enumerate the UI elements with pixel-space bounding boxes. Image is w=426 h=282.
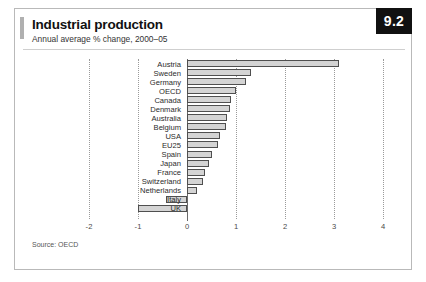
category-label: Australia (15, 115, 181, 123)
x-tick-label: 2 (283, 222, 287, 231)
category-label: Germany (15, 79, 181, 87)
category-label: Italy (15, 196, 181, 204)
bar (187, 141, 218, 148)
bar (187, 187, 197, 194)
chart-figure: 9.2 Industrial production Annual average… (14, 8, 412, 270)
category-label: Spain (15, 151, 181, 159)
x-tick-label: -1 (135, 222, 142, 231)
category-label: Austria (15, 61, 181, 69)
category-label: Canada (15, 97, 181, 105)
bar (187, 78, 246, 85)
bar (187, 87, 236, 94)
category-label: UK (15, 205, 181, 213)
bar (187, 105, 230, 112)
category-label: Netherlands (15, 187, 181, 195)
x-tick-label: -2 (86, 222, 93, 231)
category-label: EU25 (15, 142, 181, 150)
x-tick-label: 1 (234, 222, 238, 231)
x-tick-label: 0 (185, 222, 189, 231)
category-label: Switzerland (15, 178, 181, 186)
bar (187, 123, 226, 130)
x-tick-label: 4 (381, 222, 385, 231)
bar (187, 178, 203, 185)
x-tick-label: 3 (332, 222, 336, 231)
category-label: Denmark (15, 106, 181, 114)
category-label: Sweden (15, 70, 181, 78)
category-label: Belgium (15, 124, 181, 132)
gridline-4 (383, 59, 384, 219)
source-note: Source: OECD (32, 241, 78, 248)
bar (187, 60, 339, 67)
bar (187, 69, 251, 76)
category-label: OECD (15, 88, 181, 96)
category-label: USA (15, 133, 181, 141)
bar (187, 169, 205, 176)
bar (187, 96, 231, 103)
gridline-2 (285, 59, 286, 219)
category-label: France (15, 169, 181, 177)
bar (187, 160, 209, 167)
gridline-3 (334, 59, 335, 219)
bar (187, 114, 227, 121)
bar (187, 151, 212, 158)
bar (187, 132, 220, 139)
category-label: Japan (15, 160, 181, 168)
plot-area: AustriaSwedenGermanyOECDCanadaDenmarkAus… (15, 9, 413, 271)
